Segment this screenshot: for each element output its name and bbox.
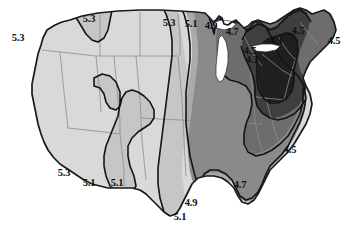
- contour-label: 5.3: [163, 18, 176, 29]
- contour-label: 4.9: [205, 21, 218, 32]
- acid-rain-ph-contour-map: 5.3 5.3 5.3 5.1 4.9 4.7 4.5 4.3 4.3 4.5 …: [0, 0, 347, 231]
- contour-label: 5.3: [58, 168, 71, 179]
- contour-label: 5.1: [111, 178, 124, 189]
- contour-label: 5.1: [174, 212, 187, 223]
- contour-label: 4.5: [284, 145, 297, 156]
- contour-label: 4.3: [246, 55, 259, 66]
- contour-label: 5.1: [83, 178, 96, 189]
- contour-label: 5.3: [83, 14, 96, 25]
- contour-label: 4.7: [226, 27, 239, 38]
- contour-label: 4.9: [185, 198, 198, 209]
- contour-label: 5.1: [185, 19, 198, 30]
- contour-label: 4.7: [234, 180, 247, 191]
- contour-label: 4.5: [328, 36, 341, 47]
- contour-label: 4.5: [292, 26, 305, 37]
- contour-label: 4.3: [270, 36, 283, 47]
- contour-label: 5.3: [12, 33, 25, 44]
